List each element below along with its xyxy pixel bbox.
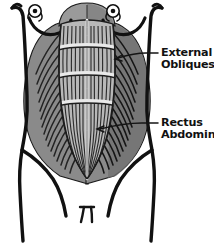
label-rectus-abdominis-line2: Abdominis [161,128,214,141]
label-external-obliques-line2: Obliques [161,58,214,71]
label-external-obliques: External Obliques [161,46,214,71]
anatomy-illustration: External Obliques Rectus Abdominis [0,0,214,243]
anatomy-figure: External Obliques Rectus Abdominis [0,0,214,243]
